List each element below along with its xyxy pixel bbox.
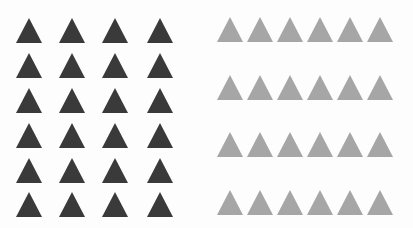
dark-triangle-r5-c3	[102, 158, 128, 183]
dark-triangle-r2-c2	[59, 53, 85, 78]
gray-triangle-r2-c4	[307, 75, 333, 100]
gray-triangle-r4-c2	[247, 190, 273, 215]
dark-triangle-r2-c3	[102, 53, 128, 78]
dark-triangle-r4-c2	[59, 123, 85, 148]
dark-triangle-r4-c1	[16, 123, 42, 148]
dark-triangle-r5-c1	[16, 158, 42, 183]
dark-triangle-r3-c1	[16, 88, 42, 113]
gray-triangle-r2-c3	[277, 75, 303, 100]
gray-triangle-r4-c5	[337, 190, 363, 215]
dark-triangle-r3-c4	[147, 88, 173, 113]
gray-triangle-r2-c6	[367, 75, 393, 100]
dark-triangle-r1-c1	[16, 18, 42, 43]
proximity-rows-group	[217, 17, 393, 215]
gray-triangle-r3-c2	[247, 132, 273, 157]
dark-triangle-r5-c2	[59, 158, 85, 183]
gray-triangle-r4-c6	[367, 190, 393, 215]
gray-triangle-r3-c5	[337, 132, 363, 157]
gray-triangle-r3-c1	[217, 132, 243, 157]
dark-triangle-r6-c1	[16, 192, 42, 217]
gray-triangle-r1-c4	[307, 17, 333, 42]
dark-triangle-r1-c3	[102, 18, 128, 43]
gray-triangle-r3-c3	[277, 132, 303, 157]
gray-triangle-r1-c5	[337, 17, 363, 42]
gray-triangle-r1-c2	[247, 17, 273, 42]
gray-triangle-r4-c4	[307, 190, 333, 215]
gray-triangle-r2-c1	[217, 75, 243, 100]
dark-triangle-r4-c4	[147, 123, 173, 148]
uniform-grid-group	[16, 18, 173, 217]
dark-triangle-r5-c4	[147, 158, 173, 183]
gray-triangle-r1-c3	[277, 17, 303, 42]
gray-triangle-r2-c5	[337, 75, 363, 100]
dark-triangle-r6-c2	[59, 192, 85, 217]
dark-triangle-r6-c4	[147, 192, 173, 217]
gray-triangle-r1-c1	[217, 17, 243, 42]
dark-triangle-r1-c4	[147, 18, 173, 43]
dark-triangle-r4-c3	[102, 123, 128, 148]
dark-triangle-r3-c2	[59, 88, 85, 113]
gray-triangle-r3-c4	[307, 132, 333, 157]
triangle-figure	[0, 0, 413, 228]
gray-triangle-r1-c6	[367, 17, 393, 42]
dark-triangle-r6-c3	[102, 192, 128, 217]
gestalt-diagram	[0, 0, 413, 228]
gray-triangle-r4-c1	[217, 190, 243, 215]
dark-triangle-r3-c3	[102, 88, 128, 113]
gray-triangle-r4-c3	[277, 190, 303, 215]
dark-triangle-r2-c1	[16, 53, 42, 78]
dark-triangle-r1-c2	[59, 18, 85, 43]
gray-triangle-r3-c6	[367, 132, 393, 157]
gray-triangle-r2-c2	[247, 75, 273, 100]
dark-triangle-r2-c4	[147, 53, 173, 78]
